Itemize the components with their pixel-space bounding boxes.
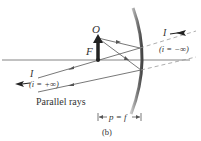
distance-label: p = f — [108, 112, 128, 122]
virtual-ray-lower — [141, 57, 196, 70]
ray-reflected-upper-arrow — [68, 66, 74, 70]
ray-diagram: O F I (i = −∞) I (i = +∞) Parallel rays … — [0, 0, 201, 141]
focal-point-dot — [96, 58, 100, 62]
image-location-left: (i = +∞) — [29, 79, 59, 89]
object-label: O — [92, 23, 100, 35]
parallel-rays-label: Parallel rays — [36, 96, 86, 107]
distance-arrowhead-right — [136, 115, 140, 119]
ray-arrow-lower — [124, 56, 129, 60]
image-label-right: I — [162, 27, 167, 38]
concave-mirror — [131, 8, 142, 114]
ray-reflected-lower-arrow — [68, 83, 74, 86]
distance-arrowhead-left — [99, 115, 103, 119]
image-label-left: I — [29, 68, 34, 79]
panel-label: (b) — [102, 127, 112, 137]
image-location-right: (i = −∞) — [159, 44, 189, 54]
focal-label: F — [85, 45, 93, 57]
